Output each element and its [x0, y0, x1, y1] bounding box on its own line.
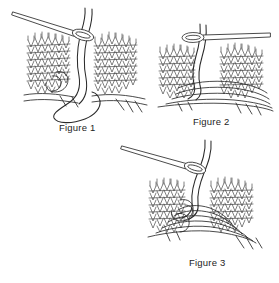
figure-1-graft-loops [46, 71, 68, 92]
figure-1-left-fabric [27, 32, 70, 93]
figure-1-right-fabric [94, 32, 137, 94]
figure-2-group [158, 24, 273, 115]
knitting-diagram: Figure 1 Figure 2 Figure 3 [0, 0, 279, 283]
figure-1-fabric-edge [24, 94, 147, 112]
diagram-canvas [0, 0, 279, 283]
figure-3-group [121, 140, 262, 249]
figure-1-group [12, 8, 147, 123]
figure-2-right-fabric [220, 43, 263, 98]
figure-3-needle[interactable] [121, 146, 207, 176]
figure-3-left-fabric [149, 178, 185, 232]
figure-2-needle[interactable] [182, 32, 270, 42]
figure-3-label: Figure 3 [189, 258, 225, 268]
figure-1-label: Figure 1 [59, 123, 95, 133]
figure-2-label: Figure 2 [193, 117, 229, 127]
